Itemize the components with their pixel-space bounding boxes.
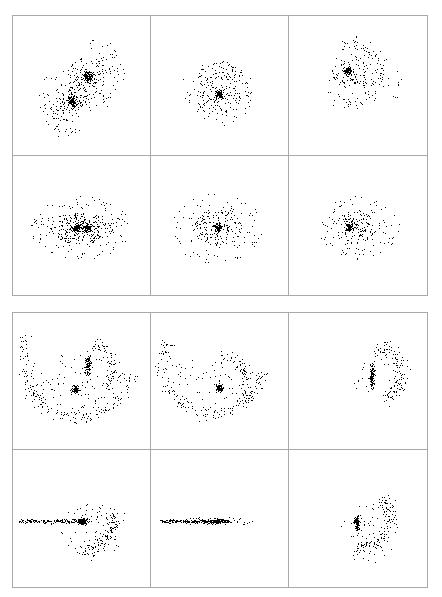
upper-block [12, 15, 428, 296]
scatter-plot-figure [0, 0, 442, 597]
panel-lower-row1-col1 [13, 313, 151, 450]
panel-upper-row2-col3 [289, 156, 427, 296]
panel-upper-row1-col2 [151, 16, 289, 156]
panel-lower-row2-col1 [13, 450, 151, 587]
panel-upper-row2-col2 [151, 156, 289, 296]
panel-lower-row1-col3 [289, 313, 427, 450]
lower-block [12, 312, 428, 588]
panel-upper-row1-col3 [289, 16, 427, 156]
figure-title [0, 0, 1, 1]
panel-upper-row2-col1 [13, 156, 151, 296]
panel-lower-row2-col3 [289, 450, 427, 587]
figure-ylabel [0, 0, 1, 1]
panel-upper-row1-col1 [13, 16, 151, 156]
panel-lower-row2-col2 [151, 450, 289, 587]
figure-xlabel [0, 0, 1, 1]
panel-lower-row1-col2 [151, 313, 289, 450]
